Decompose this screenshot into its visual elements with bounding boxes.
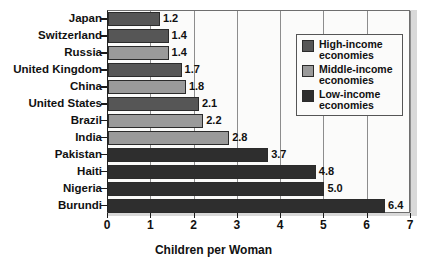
- legend-swatch-high-icon: [302, 40, 314, 52]
- x-tick-label-0: 0: [104, 218, 111, 232]
- bar-value-label: 3.7: [271, 147, 286, 162]
- legend-swatch-low-icon: [302, 90, 314, 102]
- bar-value-label: 2.1: [202, 96, 217, 111]
- bar-value-label: 1.8: [189, 79, 204, 94]
- legend-label: High-incomeeconomies: [319, 39, 383, 61]
- frame-shadow-bottom: [107, 213, 417, 216]
- category-label-switzerland: Switzerland: [2, 28, 102, 42]
- x-axis-title: Children per Woman: [0, 243, 427, 257]
- bar-chart: JapanSwitzerlandRussiaUnited KingdomChin…: [0, 0, 427, 272]
- y-tick-mark: [101, 86, 107, 88]
- x-tick-label-3: 3: [234, 218, 241, 232]
- y-tick-mark: [101, 18, 107, 20]
- bar-value-label: 1.7: [185, 62, 200, 77]
- x-tick-label-2: 2: [190, 218, 197, 232]
- legend-item-high: High-incomeeconomies: [302, 39, 398, 61]
- category-label-united-kingdom: United Kingdom: [2, 62, 102, 76]
- y-tick-mark: [101, 52, 107, 54]
- legend-label: Middle-incomeeconomies: [319, 64, 393, 86]
- category-label-russia: Russia: [2, 45, 102, 59]
- bar-value-label: 1.4: [172, 28, 187, 43]
- legend-item-middle: Middle-incomeeconomies: [302, 64, 398, 86]
- x-tick-label-4: 4: [277, 218, 284, 232]
- category-label-japan: Japan: [2, 11, 102, 25]
- y-tick-mark: [101, 35, 107, 37]
- x-tick-label-1: 1: [147, 218, 154, 232]
- chart-legend: High-incomeeconomiesMiddle-incomeeconomi…: [296, 34, 403, 116]
- bar-value-label: 6.4: [388, 198, 403, 213]
- category-label-haiti: Haiti: [2, 164, 102, 178]
- legend-label: Low-incomeeconomies: [319, 89, 380, 111]
- category-label-india: India: [2, 130, 102, 144]
- category-label-nigeria: Nigeria: [2, 181, 102, 195]
- x-tick-label-7: 7: [407, 218, 414, 232]
- y-tick-mark: [101, 103, 107, 105]
- y-tick-mark: [101, 171, 107, 173]
- x-tick-label-6: 6: [363, 218, 370, 232]
- y-tick-mark: [101, 205, 107, 207]
- category-label-burundi: Burundi: [2, 198, 102, 212]
- category-label-brazil: Brazil: [2, 113, 102, 127]
- legend-item-low: Low-incomeeconomies: [302, 89, 398, 111]
- y-tick-mark: [101, 69, 107, 71]
- x-tick-label-5: 5: [320, 218, 327, 232]
- y-tick-mark: [101, 137, 107, 139]
- y-tick-mark: [101, 154, 107, 156]
- y-tick-mark: [101, 120, 107, 122]
- bar-value-label: 1.4: [172, 45, 187, 60]
- bar-value-label: 1.2: [163, 11, 178, 26]
- legend-swatch-middle-icon: [302, 65, 314, 77]
- bar-value-label: 2.8: [232, 130, 247, 145]
- category-label-pakistan: Pakistan: [2, 147, 102, 161]
- bar-value-label: 4.8: [319, 164, 334, 179]
- bar-value-label: 2.2: [206, 113, 221, 128]
- bar-value-label: 5.0: [327, 181, 342, 196]
- category-axis: JapanSwitzerlandRussiaUnited KingdomChin…: [0, 10, 102, 213]
- category-label-united-states: United States: [2, 96, 102, 110]
- y-tick-mark: [101, 188, 107, 190]
- category-label-china: China: [2, 79, 102, 93]
